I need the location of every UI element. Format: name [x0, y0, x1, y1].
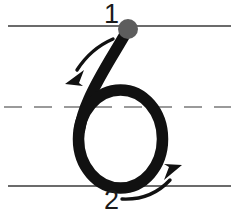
- start-dot: [118, 19, 138, 39]
- handwriting-worksheet: 1 2: [0, 0, 231, 216]
- numeral-six-loop: [79, 90, 163, 188]
- stroke-2-arrowhead: [164, 164, 182, 180]
- stroke-order-label-2: 2: [104, 187, 119, 214]
- stroke-1-arrowhead: [65, 70, 84, 86]
- stroke-order-label-1: 1: [104, 1, 119, 28]
- worksheet-canvas: [0, 0, 231, 216]
